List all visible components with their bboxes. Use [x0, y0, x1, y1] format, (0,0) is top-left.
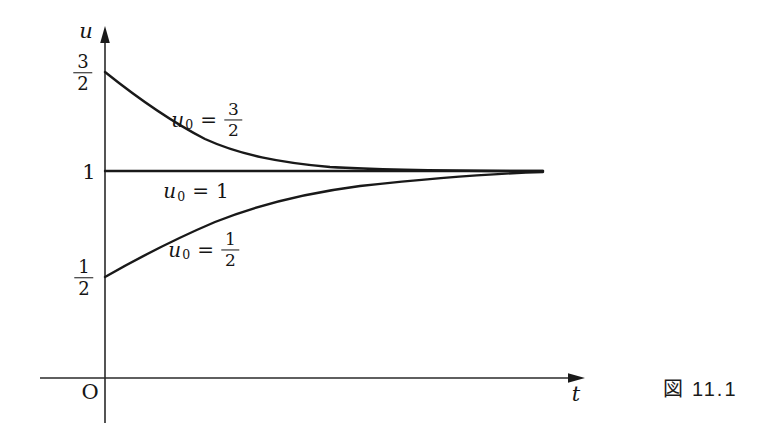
y-tick-one: 1 — [82, 160, 95, 184]
fraction-numerator: 1 — [221, 229, 240, 250]
fraction-one-half: 12 — [221, 229, 240, 270]
x-axis-label: t — [572, 382, 580, 406]
math-variable: u — [163, 179, 176, 203]
plot-area — [0, 0, 758, 441]
equals-sign: = — [197, 238, 214, 262]
fraction-denominator: 2 — [225, 251, 236, 271]
fraction-numerator: 3 — [224, 99, 243, 120]
fraction-numerator: 1 — [74, 256, 93, 278]
curve-label-u0-three-halves: u0=32 — [171, 99, 242, 140]
fraction-three-halves: 32 — [224, 99, 243, 140]
math-value: 1 — [216, 179, 229, 203]
fraction-numerator: 3 — [73, 51, 92, 73]
fraction-denominator: 2 — [78, 279, 89, 300]
curve-label-u0-one: u0=1 — [163, 179, 228, 203]
curve-label-u0-one-half: u0=12 — [168, 229, 239, 270]
math-subscript: 0 — [185, 118, 193, 133]
equals-sign: = — [200, 108, 217, 132]
math-subscript: 0 — [182, 248, 190, 263]
figure-stage: u 3 2 1 1 2 O t u0=32 u0=1 u0=12 図 11.1 — [0, 0, 758, 441]
origin-label: O — [81, 380, 98, 404]
fraction-denominator: 2 — [228, 121, 239, 141]
figure-caption: 図 11.1 — [663, 373, 738, 402]
y-tick-three-halves: 3 2 — [73, 49, 92, 94]
fraction-one-half: 1 2 — [74, 256, 93, 299]
y-axis-arrowhead — [100, 26, 110, 43]
y-tick-one-half: 1 2 — [74, 254, 93, 299]
y-axis-label: u — [79, 19, 93, 43]
fraction-three-halves: 3 2 — [73, 51, 92, 94]
math-variable: u — [171, 108, 184, 132]
math-subscript: 0 — [177, 189, 185, 204]
equals-sign: = — [192, 179, 209, 203]
fraction-denominator: 2 — [77, 74, 88, 95]
math-variable: u — [168, 238, 181, 262]
